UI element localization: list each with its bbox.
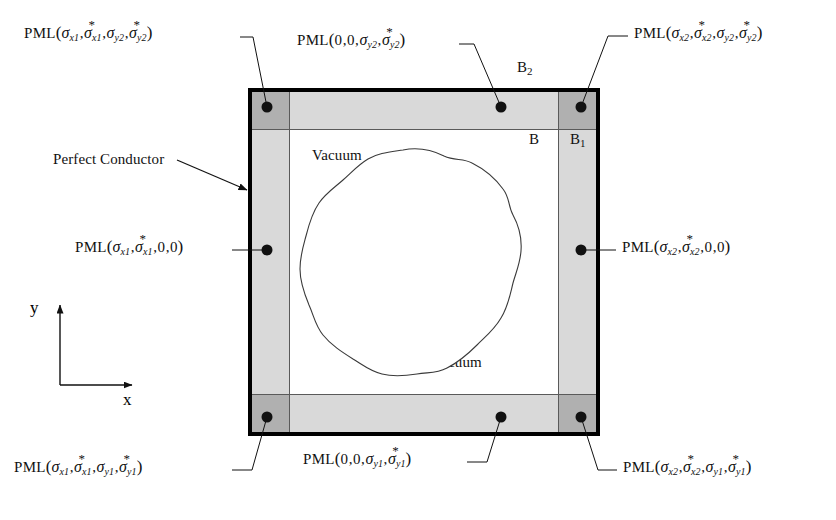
boundary-label-b2: B2	[517, 60, 533, 76]
pml-label-bottom-edge: PML(0,0,σy1,σ*y1)	[303, 450, 411, 468]
marker-dot-bottom-right-corner	[576, 412, 587, 423]
pml-corner-top-left	[252, 92, 290, 130]
axis-label-x: x	[123, 390, 132, 410]
pml-expression: PML(σx2,σ*x2,σy1,σ*y1)	[623, 458, 751, 476]
boundary-label-b: B	[529, 132, 539, 148]
pml-label-right-edge: PML(σx2,σ*x2,0,0)	[622, 238, 730, 256]
pml-expression: PML(σx1,σ*x1,σy1,σ*y1)	[14, 458, 142, 476]
figure-canvas: PML(σx1,σ*x1,σy2,σ*y2) PML(0,0,σy2,σ*y2)…	[0, 0, 836, 520]
pml-label-bottom-left-corner: PML(σx1,σ*x1,σy1,σ*y1)	[14, 458, 142, 476]
pml-expression: PML(0,0,σy1,σ*y1)	[303, 450, 411, 468]
marker-dot-bottom-edge	[496, 412, 507, 423]
marker-dot-top-right-corner	[576, 102, 587, 113]
pml-expression: PML(σx1,σ*x1,0,0)	[75, 238, 183, 256]
pml-label-top-edge: PML(0,0,σy2,σ*y2)	[297, 31, 405, 49]
marker-dot-right-edge	[576, 245, 587, 256]
vacuum-label-top: Vacuum	[312, 148, 362, 164]
boundary-label-b1: B1	[570, 132, 586, 148]
marker-dot-left-edge	[262, 245, 273, 256]
vacuum-label-bottom: Vacuum	[432, 355, 482, 371]
pml-strip-left	[252, 92, 290, 432]
pml-strip-bottom	[252, 394, 596, 432]
pml-label-bottom-right-corner: PML(σx2,σ*x2,σy1,σ*y1)	[623, 458, 751, 476]
perfect-conductor-arrow	[177, 160, 247, 190]
pml-label-left-edge: PML(σx1,σ*x1,0,0)	[75, 238, 183, 256]
source-label: Source	[385, 260, 427, 276]
pml-expression: PML(0,0,σy2,σ*y2)	[297, 31, 405, 49]
marker-dot-top-edge	[496, 102, 507, 113]
marker-dot-bottom-left-corner	[262, 412, 273, 423]
pml-strip-top	[252, 92, 596, 130]
pml-label-top-left-corner: PML(σx1,σ*x1,σy2,σ*y2)	[24, 24, 152, 42]
marker-dot-top-left-corner	[262, 102, 273, 113]
perfect-conductor-label: Perfect Conductor	[53, 152, 164, 168]
axis-label-y: y	[30, 298, 39, 318]
pml-expression: PML(σx1,σ*x1,σy2,σ*y2)	[24, 24, 152, 42]
pml-label-top-right-corner: PML(σx2,σ*x2,σy2,σ*y2)	[634, 24, 762, 42]
pml-expression: PML(σx2,σ*x2,0,0)	[622, 238, 730, 256]
pml-expression: PML(σx2,σ*x2,σy2,σ*y2)	[634, 24, 762, 42]
